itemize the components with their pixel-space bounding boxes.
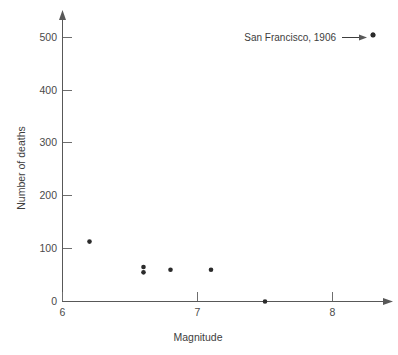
x-tick-label-7: 7	[195, 306, 201, 318]
data-point	[141, 270, 146, 275]
x-axis-group: 6 7 8 Magnitude	[60, 292, 393, 343]
x-tick-label-6: 6	[60, 306, 66, 318]
data-point-san-francisco	[371, 32, 376, 37]
data-points-layer	[87, 32, 375, 303]
x-tick-label-8: 8	[330, 306, 336, 318]
y-tick-label-100: 100	[39, 242, 57, 254]
annotation-san-francisco: San Francisco, 1906	[244, 32, 367, 43]
y-tick-label-500: 500	[39, 31, 57, 43]
data-point	[168, 267, 173, 272]
data-point	[209, 267, 214, 272]
y-tick-label-300: 300	[39, 136, 57, 148]
data-point	[263, 299, 268, 304]
plot-canvas: 0 100 200 300 400 500 Number of deaths 6…	[0, 0, 398, 355]
data-point	[141, 265, 146, 270]
data-point	[87, 239, 92, 244]
y-tick-label-400: 400	[39, 84, 57, 96]
x-axis-arrowhead-icon	[383, 298, 393, 305]
y-axis-title: Number of deaths	[15, 126, 27, 209]
y-axis-group: 0 100 200 300 400 500 Number of deaths	[15, 10, 72, 307]
x-axis-title: Magnitude	[173, 331, 222, 343]
y-axis-arrowhead-icon	[59, 10, 66, 20]
annotation-arrowhead-icon	[359, 35, 367, 41]
y-tick-label-0: 0	[51, 295, 57, 307]
scatter-plot-figure: 0 100 200 300 400 500 Number of deaths 6…	[0, 0, 398, 355]
annotation-label: San Francisco, 1906	[244, 32, 336, 43]
y-tick-label-200: 200	[39, 189, 57, 201]
